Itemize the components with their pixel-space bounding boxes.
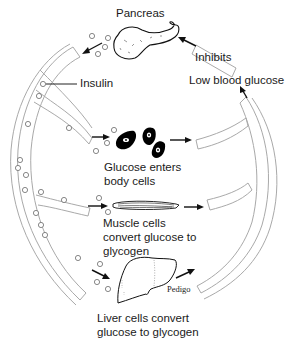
arrow-to-muscle-cells: [88, 203, 108, 209]
muscle-cell-icon: [113, 201, 179, 209]
left-blood-vessel: [11, 44, 86, 305]
liver-label-line2: glucose to glycogen: [97, 326, 199, 339]
arrow-liver-out: [176, 269, 195, 278]
low-blood-glucose-label: Low blood glucose: [189, 74, 284, 87]
right-blood-vessel: [197, 97, 277, 299]
pancreas-icon: [114, 22, 179, 59]
body-cells-label-line2: body cells: [104, 175, 155, 188]
arrow-vessel-to-low-glucose: [240, 86, 247, 98]
artist-signature: Pedigo: [167, 284, 191, 294]
muscle-label-line1: Muscle cells: [103, 217, 166, 230]
right-branch-body-cells: [196, 118, 248, 149]
arrow-muscle-cells-out: [184, 204, 204, 210]
pancreas-label: Pancreas: [116, 7, 165, 20]
muscle-label-line3: glycogen: [103, 245, 149, 258]
body-cells-icon: [116, 128, 165, 158]
inhibits-label: Inhibits: [195, 51, 231, 64]
body-cells-label-line1: Glucose enters: [104, 161, 181, 174]
arrow-to-liver: [92, 270, 110, 279]
muscle-label-line2: convert glucose to: [103, 231, 196, 244]
right-branch-muscle-cells: [207, 183, 252, 210]
arrow-body-cells-out: [170, 137, 192, 143]
liver-icon: [118, 257, 177, 303]
liver-label-line1: Liver cells convert: [97, 312, 189, 325]
insulin-label: Insulin: [80, 77, 113, 90]
arrow-inhibits-to-pancreas: [178, 37, 196, 46]
arrow-to-body-cells: [92, 134, 110, 140]
insulin-glucose-diagram: Pancreas Inhibits Insulin Low blood gluc…: [0, 0, 296, 349]
